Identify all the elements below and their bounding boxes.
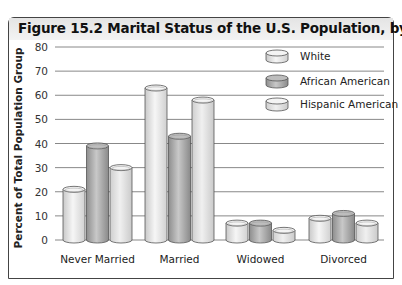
- x-category-label: Married: [160, 253, 200, 265]
- y-tick-label: 10: [35, 210, 48, 222]
- y-axis-label: Percent of Total Population Group: [12, 47, 24, 248]
- bar: [356, 220, 378, 243]
- bar: [273, 227, 295, 243]
- y-tick-label: 70: [35, 65, 48, 77]
- y-tick-label: 60: [35, 89, 48, 101]
- legend-item: Hispanic American: [266, 98, 398, 111]
- x-category-label: Widowed: [237, 253, 285, 265]
- bar: [192, 97, 214, 243]
- legend-label: White: [300, 50, 331, 62]
- legend-item: African American: [266, 75, 390, 88]
- legend-label: Hispanic American: [300, 98, 398, 110]
- y-tick-label: 30: [35, 162, 48, 174]
- y-tick-label: 0: [41, 234, 48, 246]
- bar: [169, 133, 191, 243]
- y-tick-label: 40: [35, 138, 48, 150]
- y-tick-label: 20: [35, 186, 48, 198]
- bar-chart: 01020304050607080Percent of Total Popula…: [0, 0, 402, 285]
- bar: [250, 220, 272, 243]
- bar: [87, 143, 109, 243]
- x-category-label: Divorced: [320, 253, 367, 265]
- legend-label: African American: [300, 75, 390, 87]
- legend-item: White: [266, 50, 331, 63]
- bar: [110, 165, 132, 243]
- y-tick-label: 50: [35, 113, 48, 125]
- bar: [226, 220, 248, 243]
- bar: [145, 85, 167, 243]
- bar: [63, 186, 85, 243]
- y-tick-label: 80: [35, 41, 48, 53]
- x-category-label: Never Married: [60, 253, 135, 265]
- bar: [333, 210, 355, 243]
- bar: [309, 215, 331, 243]
